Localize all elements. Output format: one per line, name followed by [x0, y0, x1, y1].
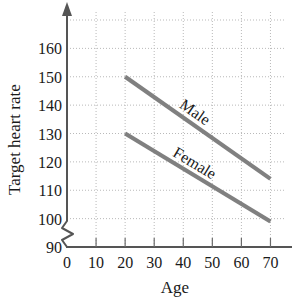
y-tick-label: 140 [38, 97, 62, 114]
x-tick-label: 70 [262, 254, 278, 271]
y-tick-label: 90 [46, 239, 62, 256]
y-tick-label: 120 [38, 154, 62, 171]
target-heart-rate-chart: 90100110120130140150160 010203040506070 … [0, 0, 292, 300]
x-tick-label: 10 [88, 254, 104, 271]
x-tick-label: 20 [117, 254, 133, 271]
y-tick-label: 110 [39, 182, 62, 199]
x-tick-label: 30 [146, 254, 162, 271]
y-tick-label: 100 [38, 211, 62, 228]
y-tick-label: 160 [38, 40, 62, 57]
x-axis-title: Age [161, 278, 189, 297]
y-tick-label: 130 [38, 126, 62, 143]
x-tick-label: 60 [233, 254, 249, 271]
x-tick-label: 50 [204, 254, 220, 271]
y-tick-label: 150 [38, 69, 62, 86]
chart-container: 90100110120130140150160 010203040506070 … [0, 0, 292, 300]
x-tick-label: 0 [63, 254, 71, 271]
y-axis-title: Target heart rate [5, 84, 24, 195]
x-tick-label: 40 [175, 254, 191, 271]
